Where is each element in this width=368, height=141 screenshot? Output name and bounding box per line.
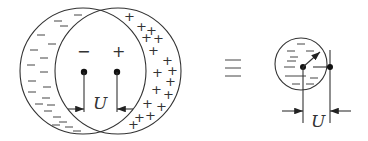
displaced-charge-spheres-diagram: + + + + + + + + + + + + + + + + + − +	[0, 0, 368, 141]
overlapping-spheres: + + + + + + + + + + + + + + + + + − +	[20, 8, 181, 134]
radius-arrow-icon	[303, 52, 320, 67]
svg-text:+: +	[151, 82, 162, 97]
voltage-label-right: U	[311, 111, 326, 131]
svg-text:+: +	[145, 108, 156, 123]
center-negative-label: −	[77, 42, 90, 61]
small-sphere-charges	[284, 44, 318, 84]
svg-text:+: +	[152, 65, 163, 80]
external-point-dot	[327, 64, 333, 70]
svg-text:+: +	[128, 117, 139, 132]
positive-charges: + + + + + + + + + + + + + + + + +	[124, 9, 178, 132]
equivalent-sphere: U	[275, 38, 351, 131]
svg-text:+: +	[148, 43, 159, 58]
small-sphere	[275, 38, 327, 90]
equivalence-symbol	[225, 60, 241, 76]
svg-text:+: +	[124, 9, 135, 24]
svg-text:+: +	[156, 99, 167, 114]
center-positive-label: +	[112, 42, 125, 61]
voltage-label-left: U	[93, 93, 108, 113]
